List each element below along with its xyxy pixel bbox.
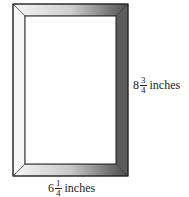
frame-left [13,4,25,176]
height-unit: inches [150,78,181,93]
height-label: 8 3 4 inches [133,76,180,95]
frame-right [116,4,128,176]
frame-inner [25,16,116,164]
frame-bottom [13,164,128,176]
picture-frame [0,0,189,197]
width-label: 6 1 4 inches [48,179,95,197]
width-unit: inches [65,181,96,196]
width-whole: 6 [48,181,54,196]
height-whole: 8 [133,78,139,93]
height-fraction: 3 4 [140,76,147,95]
width-fraction: 1 4 [55,179,62,197]
frame-top [13,4,128,16]
